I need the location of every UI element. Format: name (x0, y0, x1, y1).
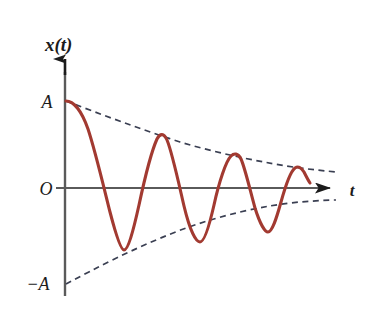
damped-oscillation-curve (66, 101, 310, 250)
origin-label: O (40, 179, 53, 199)
x-axis-label: t (350, 181, 356, 200)
damped-oscillation-plot: x(t) A O −A t (0, 0, 383, 330)
damped-curve-group (66, 101, 310, 250)
upper-envelope-curve (66, 101, 336, 172)
amplitude-positive-label: A (41, 92, 54, 112)
figure-root: x(t) A O −A t (0, 0, 383, 330)
amplitude-negative-label: −A (26, 274, 50, 294)
labels-group: x(t) A O −A t (26, 34, 355, 294)
y-axis-label: x(t) (44, 34, 72, 56)
